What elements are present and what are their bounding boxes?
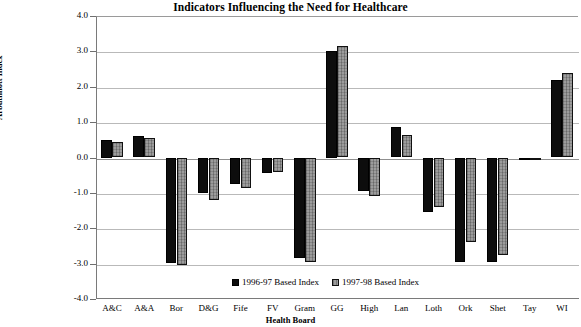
bar[interactable] xyxy=(434,158,445,208)
bar[interactable] xyxy=(358,158,369,192)
bar[interactable] xyxy=(530,158,541,160)
legend-item-1997-98[interactable]: 1997-98 Based Index xyxy=(332,277,419,287)
legend-item-1996-97[interactable]: 1996-97 Based Index xyxy=(232,277,319,287)
bar[interactable] xyxy=(101,140,112,158)
x-axis-tick-label: Bor xyxy=(160,303,192,313)
bar-group xyxy=(514,16,546,299)
bar[interactable] xyxy=(391,127,402,157)
bar[interactable] xyxy=(562,73,573,158)
y-axis-tick-label: -4.0 xyxy=(48,293,88,303)
y-axis-tick-label: 4.0 xyxy=(48,10,88,20)
y-axis-tick-label: 0.0 xyxy=(48,152,88,162)
x-axis-tick-label: Loth xyxy=(417,303,449,313)
bar-group xyxy=(321,16,353,299)
y-axis-tick-label: 3.0 xyxy=(48,45,88,55)
x-axis-tick-label: Ork xyxy=(449,303,481,313)
bar[interactable] xyxy=(144,138,155,157)
x-axis-title: Health Board xyxy=(0,315,581,325)
x-axis-tick-label: FV xyxy=(257,303,289,313)
legend-label: 1997-98 Based Index xyxy=(342,277,419,287)
y-axis-title: Arbuthnott Index xyxy=(0,56,4,120)
bar[interactable] xyxy=(273,158,284,172)
legend-swatch-icon xyxy=(332,279,339,286)
bar[interactable] xyxy=(455,158,466,262)
bar[interactable] xyxy=(112,142,123,158)
x-axis-tick-label: High xyxy=(353,303,385,313)
bar[interactable] xyxy=(133,136,144,157)
bar-group xyxy=(160,16,192,299)
bar-group xyxy=(96,16,128,299)
x-axis-tick-label: Tay xyxy=(514,303,546,313)
bar-group xyxy=(385,16,417,299)
bar[interactable] xyxy=(209,158,220,200)
bar-group xyxy=(257,16,289,299)
bar[interactable] xyxy=(466,158,477,243)
y-axis-tick-label: 1.0 xyxy=(48,116,88,126)
bar-group xyxy=(482,16,514,299)
bar-group xyxy=(192,16,224,299)
bar[interactable] xyxy=(337,46,348,157)
bar[interactable] xyxy=(230,158,241,185)
bar[interactable] xyxy=(305,158,316,262)
y-axis-tick-label: -1.0 xyxy=(48,187,88,197)
legend-swatch-icon xyxy=(232,279,239,286)
bar-group xyxy=(225,16,257,299)
bar[interactable] xyxy=(177,158,188,266)
bar[interactable] xyxy=(423,158,434,213)
bar[interactable] xyxy=(519,158,530,160)
x-axis-tick-label: Gram xyxy=(289,303,321,313)
bar-group xyxy=(546,16,578,299)
x-axis-tick-label: Shet xyxy=(482,303,514,313)
x-axis-tick-label: A&A xyxy=(128,303,160,313)
y-axis-tick-label: -2.0 xyxy=(48,222,88,232)
bar[interactable] xyxy=(294,158,305,259)
x-axis-tick-label: Fife xyxy=(225,303,257,313)
bar-group xyxy=(449,16,481,299)
y-axis-tick-mark xyxy=(90,299,96,300)
chart-container: Indicators Influencing the Need for Heal… xyxy=(0,0,581,327)
bar-group xyxy=(289,16,321,299)
bar-group xyxy=(353,16,385,299)
x-axis-tick-label: D&G xyxy=(192,303,224,313)
bar[interactable] xyxy=(262,158,273,174)
y-axis-tick-label: -3.0 xyxy=(48,258,88,268)
bar[interactable] xyxy=(241,158,252,188)
bar-group xyxy=(417,16,449,299)
bar-series-layer xyxy=(96,16,578,299)
x-axis-tick-label: A&C xyxy=(96,303,128,313)
x-axis-tick-label: Lan xyxy=(385,303,417,313)
x-axis-tick-label: GG xyxy=(321,303,353,313)
bar[interactable] xyxy=(498,158,509,255)
bar[interactable] xyxy=(369,158,380,197)
bar[interactable] xyxy=(487,158,498,262)
legend-label: 1996-97 Based Index xyxy=(242,277,319,287)
y-axis-tick-label: 2.0 xyxy=(48,81,88,91)
bar[interactable] xyxy=(551,80,562,158)
bar[interactable] xyxy=(402,135,413,158)
bar-group xyxy=(128,16,160,299)
bar[interactable] xyxy=(198,158,209,193)
x-axis-tick-label: WI xyxy=(546,303,578,313)
bar[interactable] xyxy=(166,158,177,263)
bar[interactable] xyxy=(326,51,337,157)
chart-legend: 1996-97 Based Index 1997-98 Based Index xyxy=(232,277,419,287)
